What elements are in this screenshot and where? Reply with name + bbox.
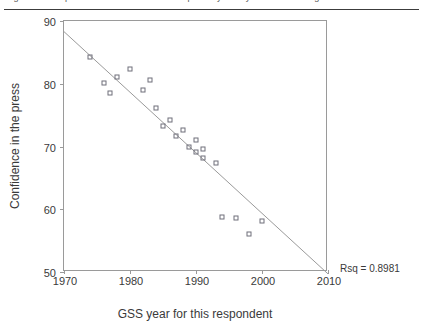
caption-text: Figure: Scatterplot of mean confidence i… <box>6 0 365 2</box>
data-point <box>108 91 113 96</box>
x-axis-tick-label: 1980 <box>119 275 143 287</box>
horizontal-rule <box>4 9 419 10</box>
y-axis-title-text: Confidence in the press <box>8 82 22 208</box>
x-axis-title: GSS year for this respondent <box>63 307 327 321</box>
data-point <box>233 216 238 221</box>
y-axis-title: Confidence in the press <box>6 20 24 271</box>
x-axis-tick-label: 1990 <box>185 275 209 287</box>
data-point <box>154 106 159 111</box>
y-axis-tick-label: 80 <box>44 79 56 91</box>
data-point <box>213 161 218 166</box>
scatter-plot-figure: Confidence in the press 5060708090197019… <box>0 12 423 332</box>
data-point <box>147 77 152 82</box>
x-axis-tick-label: 2010 <box>317 275 341 287</box>
data-point <box>101 81 106 86</box>
data-point <box>88 55 93 60</box>
rsq-annotation: Rsq = 0.8981 <box>340 263 400 274</box>
data-point <box>246 231 251 236</box>
y-axis-tick-label: 60 <box>44 204 56 216</box>
data-point <box>194 149 199 154</box>
x-axis-tick-label: 2000 <box>251 275 275 287</box>
data-point <box>200 156 205 161</box>
regression-line <box>64 21 328 272</box>
data-point <box>194 138 199 143</box>
data-point <box>128 67 133 72</box>
y-axis-tick-label: 70 <box>44 142 56 154</box>
data-point <box>180 128 185 133</box>
data-point <box>260 219 265 224</box>
data-point <box>141 88 146 93</box>
data-point <box>187 144 192 149</box>
data-point <box>161 124 166 129</box>
y-axis-tick-label: 90 <box>44 16 56 28</box>
cropped-caption-strip: Figure: Scatterplot of mean confidence i… <box>0 0 423 9</box>
x-axis-tick-label: 1970 <box>53 275 77 287</box>
data-point <box>167 117 172 122</box>
data-point <box>174 134 179 139</box>
data-point <box>200 147 205 152</box>
plot-frame: 506070809019701980199020002010 <box>63 20 327 271</box>
x-axis-title-text: GSS year for this respondent <box>118 307 273 321</box>
data-point <box>220 214 225 219</box>
data-point <box>114 75 119 80</box>
plot-area: 506070809019701980199020002010 <box>64 21 326 270</box>
